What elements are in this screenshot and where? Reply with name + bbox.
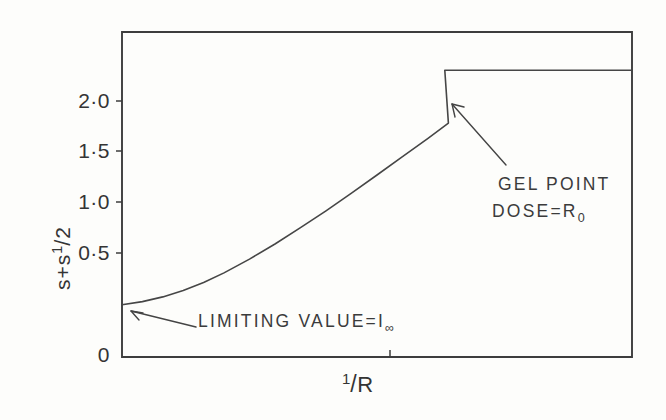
gel-point-arrow	[452, 104, 506, 165]
annotation-limiting-value: LIMITING VALUE=I∞	[198, 313, 394, 334]
y-axis-title: s+s1/2	[50, 226, 74, 290]
annotation-gel-point-dose-text: DOSE=R	[492, 201, 578, 221]
y-axis-title-exponent-slash: /	[50, 239, 75, 246]
annotation-gel-point-line2: DOSE=R0	[492, 203, 585, 224]
limiting-value-arrow	[131, 311, 196, 327]
y-axis-title-exponent-numerator: 1	[49, 246, 65, 254]
y-axis-title-plus: +	[51, 265, 74, 278]
y-tick-label-1-5: 1·5	[62, 140, 110, 161]
figure-canvas: 2·0 1·5 1·0 0·5 0 s+s1/2 1/R LIMITING VA…	[0, 0, 666, 420]
y-axis-title-term2: s	[51, 254, 74, 266]
y-tick-label-0: 0	[62, 344, 110, 365]
y-axis-title-term1: s	[51, 279, 74, 291]
annotation-gel-point-dose-subscript: 0	[578, 211, 585, 225]
y-axis-title-exponent-denominator: 2	[51, 226, 74, 239]
y-tick-label-2-0: 2·0	[62, 90, 110, 111]
x-axis-title: 1/R	[342, 372, 374, 396]
annotation-gel-point-line1: GEL POINT	[498, 176, 611, 194]
x-axis-title-denominator: R	[357, 372, 373, 397]
y-tick-label-1-0: 1·0	[62, 191, 110, 212]
annotation-limiting-value-text: LIMITING VALUE=I	[198, 311, 385, 331]
plot-frame	[122, 32, 632, 357]
annotation-limiting-value-subscript: ∞	[385, 321, 394, 335]
